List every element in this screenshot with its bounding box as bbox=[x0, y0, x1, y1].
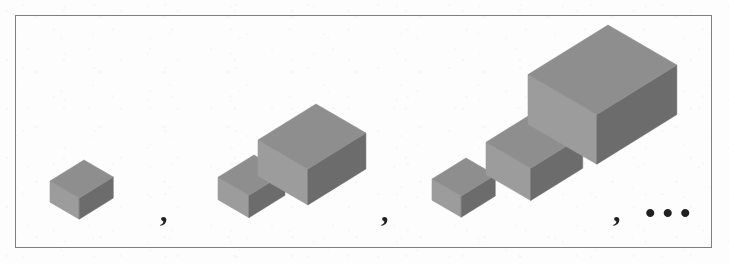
figure-artwork: ,,,••• bbox=[0, 0, 729, 264]
cube bbox=[50, 160, 113, 219]
sequence-ellipsis: ••• bbox=[645, 198, 698, 228]
sequence-comma: , bbox=[381, 196, 389, 226]
cube bbox=[258, 104, 366, 205]
sequence-comma: , bbox=[613, 196, 621, 226]
cube-sequence-figure: ,,,••• bbox=[0, 0, 729, 264]
cube bbox=[528, 25, 677, 164]
sequence-comma: , bbox=[160, 196, 168, 226]
